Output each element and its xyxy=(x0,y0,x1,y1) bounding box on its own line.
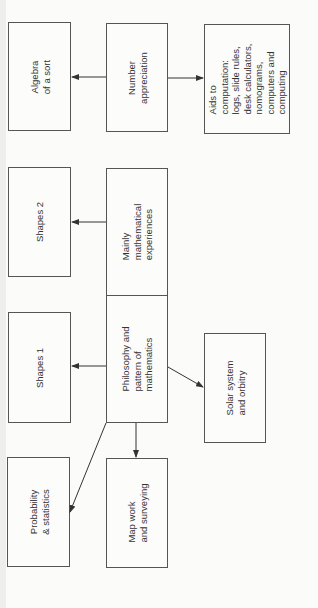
edges xyxy=(0,0,318,608)
arrow-philosophy-to-solar xyxy=(168,367,203,387)
arrow-philosophy-to-probability xyxy=(70,423,106,512)
